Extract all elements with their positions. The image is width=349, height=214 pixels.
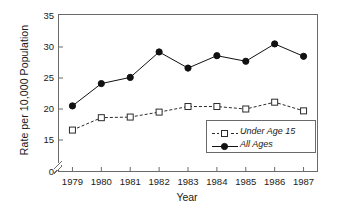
- legend-item-all-ages: All Ages: [212, 137, 311, 150]
- legend-label: Under Age 15: [238, 126, 295, 136]
- legend-item-under-age-15: Under Age 15: [212, 124, 311, 137]
- y-axis-tick-label: 25: [28, 73, 54, 83]
- y-axis-title: Rate per 10,000 Population: [18, 5, 30, 175]
- filled-circle-marker-icon: [212, 138, 238, 149]
- legend-label: All Ages: [238, 139, 273, 149]
- chart-legend: Under Age 15 All Ages: [206, 120, 316, 153]
- open-square-marker-icon: [212, 125, 238, 136]
- x-axis-title: Year: [56, 191, 318, 203]
- y-axis-tick-label: 35: [28, 11, 54, 21]
- x-axis-tick-label: 1987: [284, 177, 324, 187]
- y-axis-tick-label: 15: [28, 135, 54, 145]
- y-axis-tick-label: 0: [28, 167, 54, 177]
- y-axis-tick-label: 20: [28, 104, 54, 114]
- chart-figure: Rate per 10,000 Population 01520253035 1…: [0, 0, 349, 214]
- y-axis-tick-label: 30: [28, 42, 54, 52]
